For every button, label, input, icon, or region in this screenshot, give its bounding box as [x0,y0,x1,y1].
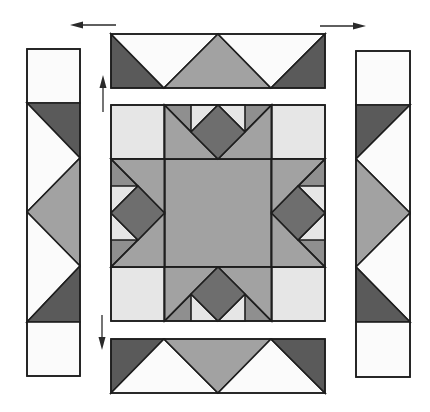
left-border-strip [27,49,80,376]
star-point-bottom [165,267,272,321]
quilt-assembly-diagram [0,0,430,412]
arrow-right-icon [320,23,366,30]
top-border-strip [111,34,325,88]
corner-square-top-right [272,105,326,159]
corner-square-top-left [111,105,165,159]
star-point-right [272,159,326,267]
arrow-left-icon [70,22,116,29]
corner-square-bottom-right [272,267,326,321]
bottom-border-strip [111,339,325,393]
center-star-block [111,105,325,321]
star-point-left [111,159,165,267]
arrow-down-icon [99,315,106,350]
center-square [165,159,272,267]
corner-square-bottom-left [111,267,165,321]
right-border-strip [356,51,410,377]
arrow-up-icon [100,75,107,112]
